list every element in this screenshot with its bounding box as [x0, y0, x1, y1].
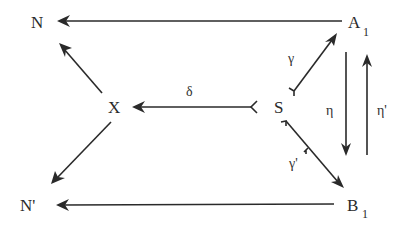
- edge-A1-to-N: [57, 15, 342, 27]
- edge-A1-to-B1: η: [326, 52, 351, 156]
- node-N: N: [31, 13, 43, 32]
- edge-X-to-N: [59, 43, 102, 93]
- arrowhead-icon: [325, 33, 337, 46]
- edge-line: [294, 40, 332, 91]
- edge-line: [64, 204, 334, 205]
- node-A1-subscript: 1: [363, 25, 369, 39]
- node-B1-subscript: 1: [362, 207, 368, 221]
- edge-line: [286, 121, 338, 182]
- node-S: S: [274, 98, 283, 117]
- node-A1-label: A: [348, 13, 361, 32]
- label-gamma-prime: γ': [288, 156, 298, 171]
- edge-line: [64, 49, 102, 93]
- edge-X-to-N-prime: [51, 122, 111, 184]
- node-B1: B 1: [347, 196, 368, 221]
- label-delta: δ: [186, 84, 193, 99]
- monic-tail-icon: [281, 121, 286, 126]
- edge-S-to-B1: γ': [281, 121, 344, 188]
- label-gamma: γ: [287, 51, 294, 66]
- node-X: X: [108, 98, 120, 117]
- edge-S-to-A1: γ: [287, 33, 337, 96]
- monic-tail-icon: [289, 88, 294, 96]
- edge-B1-to-A1: η': [362, 54, 387, 155]
- node-A1: A 1: [348, 13, 369, 39]
- label-eta-prime: η': [377, 103, 387, 118]
- monic-tail-icon: [251, 101, 257, 113]
- label-eta: η: [326, 103, 333, 118]
- commutative-diagram: N A 1 X S N' B 1 δ γ: [0, 0, 417, 228]
- node-N-prime: N': [20, 196, 35, 215]
- tick-mark-icon: [304, 148, 308, 154]
- edge-B1-to-N-prime: [56, 199, 334, 211]
- node-B1-label: B: [347, 196, 358, 215]
- edge-line: [57, 122, 111, 178]
- edge-S-to-X: δ: [132, 84, 257, 113]
